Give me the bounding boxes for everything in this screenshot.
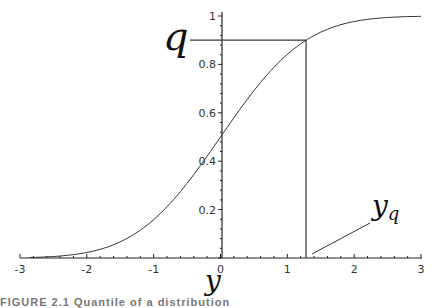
y-tick-label: 1 bbox=[209, 10, 216, 23]
q-label: q bbox=[163, 13, 189, 59]
y-tick-label: 0.8 bbox=[199, 58, 217, 71]
x-tick-label: 3 bbox=[418, 263, 425, 276]
y-tick-label: 0.2 bbox=[199, 204, 217, 217]
x-tick-label: -1 bbox=[148, 263, 159, 276]
yq-pointer-line bbox=[312, 223, 370, 254]
x-tick-label: -2 bbox=[81, 263, 92, 276]
y-tick-label: 0.6 bbox=[199, 107, 217, 120]
x-tick-label: -3 bbox=[15, 263, 26, 276]
figure-caption: FIGURE 2.1 Quantile of a distribution bbox=[0, 296, 230, 308]
yq-label: yq bbox=[370, 189, 399, 224]
y-ticks: 0.20.40.60.81 bbox=[199, 10, 223, 258]
x-tick-label: 1 bbox=[284, 263, 291, 276]
cdf-curve bbox=[30, 16, 421, 257]
x-tick-label: 2 bbox=[351, 263, 358, 276]
y-tick-label: 0.4 bbox=[199, 155, 217, 168]
y-axis-variable-label: y bbox=[203, 264, 222, 297]
